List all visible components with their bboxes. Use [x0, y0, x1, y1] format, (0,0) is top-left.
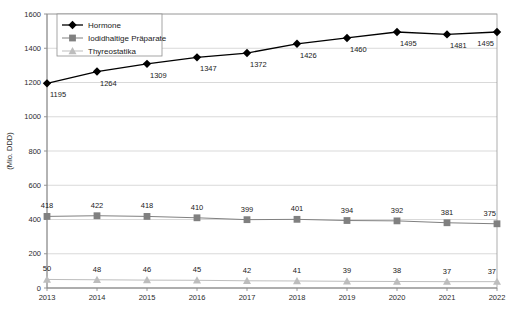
data-label: 39: [343, 266, 351, 275]
data-point-marker: [444, 219, 451, 226]
chart-container: 0200400600800100012001400160020132014201…: [0, 0, 520, 317]
x-tick-label: 2022: [489, 293, 506, 302]
data-label: 401: [291, 204, 304, 213]
data-label: 422: [91, 201, 104, 210]
y-tick-label: 1400: [24, 44, 41, 53]
series-line: [47, 279, 497, 281]
data-point-marker: [43, 79, 51, 87]
data-label: 1426: [300, 51, 317, 60]
chart-legend: HormoneIodidhaltige PräparateThyreostati…: [57, 14, 167, 56]
data-point-marker: [344, 217, 351, 224]
series-3: 50484645424139383737: [43, 264, 501, 284]
data-label: 1347: [200, 64, 217, 73]
x-tick-label: 2020: [389, 293, 406, 302]
legend-item-label: Thyreostatika: [88, 47, 137, 56]
x-tick-label: 2018: [289, 293, 306, 302]
data-point-marker: [243, 49, 251, 57]
data-point-marker: [244, 216, 251, 223]
series-2: 418422418410399401394392381375: [41, 201, 501, 227]
data-point-marker: [393, 28, 401, 36]
data-label: 399: [241, 205, 254, 214]
data-label: 1195: [50, 90, 66, 99]
data-label: 1481: [450, 41, 467, 50]
data-point-marker: [193, 53, 201, 61]
data-point-marker: [94, 212, 101, 219]
legend-sample-marker: [69, 35, 76, 42]
y-tick-label: 200: [28, 249, 41, 258]
data-point-marker: [343, 34, 351, 42]
data-label: 410: [191, 203, 204, 212]
data-point-marker: [143, 60, 151, 68]
data-label: 1460: [350, 45, 367, 54]
data-label: 375: [483, 209, 496, 218]
data-label: 37: [488, 267, 496, 276]
data-label: 418: [141, 201, 154, 210]
data-point-marker: [293, 40, 301, 48]
data-point-marker: [294, 216, 301, 223]
data-label: 45: [193, 265, 201, 274]
data-label: 1495: [477, 39, 494, 48]
x-tick-label: 2021: [439, 293, 456, 302]
legend-item-label: Hormone: [88, 21, 121, 30]
data-label: 394: [341, 206, 354, 215]
data-point-marker: [394, 217, 401, 224]
x-tick-label: 2019: [339, 293, 356, 302]
y-tick-label: 1000: [24, 112, 41, 121]
y-axis-title: (Mio. DDD): [5, 132, 14, 170]
data-label: 1495: [400, 39, 417, 48]
y-tick-label: 0: [37, 284, 41, 293]
data-point-marker: [93, 67, 101, 75]
x-tick-label: 2013: [39, 293, 56, 302]
legend-item-label: Iodidhaltige Präparate: [88, 34, 167, 43]
data-label: 46: [143, 265, 151, 274]
line-chart: 0200400600800100012001400160020132014201…: [0, 0, 520, 317]
data-label: 42: [243, 266, 251, 275]
data-point-marker: [44, 213, 51, 220]
data-point-marker: [494, 220, 501, 227]
x-tick-label: 2014: [89, 293, 106, 302]
data-point-marker: [194, 214, 201, 221]
data-label: 50: [43, 264, 51, 273]
data-label: 418: [41, 201, 54, 210]
data-label: 1309: [150, 71, 167, 80]
x-tick-label: 2016: [189, 293, 206, 302]
data-label: 1372: [250, 60, 267, 69]
data-label: 48: [93, 265, 101, 274]
data-label: 392: [391, 206, 404, 215]
y-tick-label: 600: [28, 181, 41, 190]
y-tick-label: 1200: [24, 78, 41, 87]
data-point-marker: [144, 213, 151, 220]
x-tick-label: 2015: [139, 293, 156, 302]
y-tick-label: 400: [28, 215, 41, 224]
data-label: 381: [441, 208, 454, 217]
data-point-marker: [493, 28, 501, 36]
data-label: 41: [293, 266, 301, 275]
data-point-marker: [443, 30, 451, 38]
data-label: 38: [393, 266, 401, 275]
y-tick-label: 800: [28, 147, 41, 156]
y-tick-label: 1600: [24, 10, 41, 19]
x-tick-label: 2017: [239, 293, 256, 302]
data-label: 1264: [100, 79, 117, 88]
data-label: 37: [443, 267, 451, 276]
